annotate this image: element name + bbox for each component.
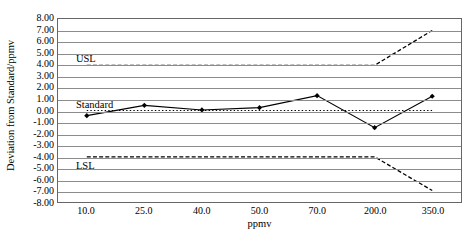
y-tick-label: 1.00 [37,94,55,104]
plot-area: USL Standard LSL [57,18,462,203]
y-tick-label: 0.00 [37,106,55,116]
data-point-marker [257,105,262,110]
data-point-marker [430,94,435,99]
gridline [58,112,461,113]
data-point-marker [142,103,147,108]
series-line-usl [87,30,432,65]
x-tick-label: 25.0 [135,205,153,217]
x-tick-label: 350.0 [422,205,445,217]
gridline [58,158,461,159]
gridline [58,146,461,147]
gridline [58,181,461,182]
gridline [58,169,461,170]
y-tick-mark [57,19,58,20]
y-tick-label: -2.00 [33,129,54,139]
y-tick-label: 6.00 [37,36,55,46]
y-tick-label: -4.00 [33,152,54,162]
gridline [58,65,461,66]
y-axis-title-text: Deviation from Standard/ppmv [6,39,17,170]
gridline [58,192,461,193]
x-tick-label: 10.0 [77,205,95,217]
x-axis-title: ppmv [248,218,272,230]
gridline [58,135,461,136]
y-tick-label: 5.00 [37,48,55,58]
y-tick-label: 2.00 [37,82,55,92]
y-tick-label: -3.00 [33,140,54,150]
x-tick-label: 50.0 [251,205,269,217]
y-tick-label: 3.00 [37,71,55,81]
y-tick-label: 7.00 [37,25,55,35]
gridline [58,100,461,101]
gridline [58,42,461,43]
x-tick-label: 70.0 [309,205,327,217]
series-line-lsl [87,157,432,191]
chart-container: Deviation from Standard/ppmv 8.007.006.0… [0,0,467,241]
gridline [58,31,461,32]
data-point-marker [84,113,89,118]
y-axis-tick-labels: 8.007.006.005.004.003.002.001.000.00-1.0… [20,0,56,241]
y-tick-label: -1.00 [33,117,54,127]
y-tick-label: 8.00 [37,13,55,23]
data-point-marker [314,93,319,98]
gridline [58,123,461,124]
data-point-marker [372,125,377,130]
gridline [58,77,461,78]
x-tick-label: 40.0 [193,205,211,217]
chart-plot-svg [58,19,461,202]
y-tick-label: -5.00 [33,163,54,173]
gridline [58,88,461,89]
y-tick-label: -8.00 [33,198,54,208]
y-tick-label: -7.00 [33,186,54,196]
x-tick-label: 200.0 [364,205,387,217]
y-tick-label: -6.00 [33,175,54,185]
gridline [58,54,461,55]
y-tick-label: 4.00 [37,59,55,69]
y-axis-title: Deviation from Standard/ppmv [0,0,22,210]
